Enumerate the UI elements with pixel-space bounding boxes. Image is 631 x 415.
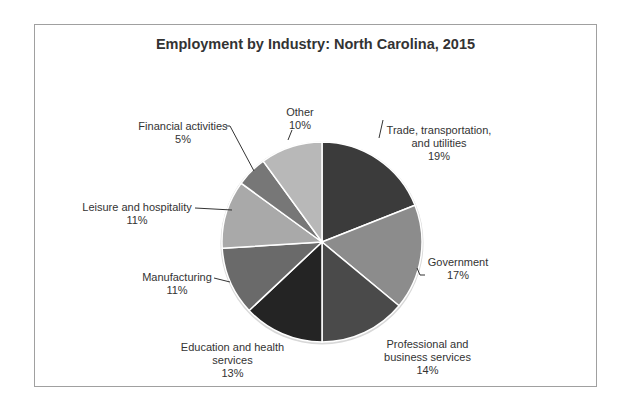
label-trade-line2: and utilities: [384, 137, 494, 150]
label-education-line2: services: [175, 354, 290, 367]
label-education-line1: Education and health: [175, 341, 290, 354]
label-financial-line1: Financial activities: [138, 120, 228, 133]
label-financial: Financial activities 5%: [138, 120, 228, 146]
label-professional-percent: 14%: [370, 364, 485, 377]
label-trade-percent: 19%: [384, 150, 494, 163]
label-manufacturing-line1: Manufacturing: [140, 271, 214, 284]
label-other: Other 10%: [280, 106, 320, 132]
label-manufacturing: Manufacturing 11%: [140, 271, 214, 297]
leader-line-financial: [226, 126, 254, 171]
label-leisure: Leisure and hospitality 11%: [78, 201, 196, 227]
label-other-percent: 10%: [280, 119, 320, 132]
label-education: Education and health services 13%: [175, 341, 290, 380]
label-professional: Professional and business services 14%: [370, 338, 485, 377]
leader-line-trade: [379, 120, 383, 138]
label-government: Government 17%: [425, 256, 491, 282]
label-professional-line2: business services: [370, 351, 485, 364]
label-government-line1: Government: [425, 256, 491, 269]
label-trade-line1: Trade, transportation,: [384, 124, 494, 137]
pie-slices: [221, 142, 424, 345]
label-leisure-line1: Leisure and hospitality: [78, 201, 196, 214]
label-other-line1: Other: [280, 106, 320, 119]
label-financial-percent: 5%: [138, 133, 228, 146]
label-trade: Trade, transportation, and utilities 19%: [384, 124, 494, 163]
label-leisure-percent: 11%: [78, 214, 196, 227]
label-education-percent: 13%: [175, 367, 290, 380]
label-manufacturing-percent: 11%: [140, 284, 214, 297]
label-professional-line1: Professional and: [370, 338, 485, 351]
label-government-percent: 17%: [425, 269, 491, 282]
